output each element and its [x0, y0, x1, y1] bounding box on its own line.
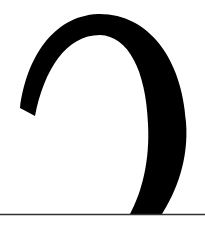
- glyph-svg: [0, 0, 205, 226]
- glyph-arc-stroke: [20, 14, 186, 214]
- glyph-figure: Cropped close-up of a large black serif …: [0, 0, 205, 226]
